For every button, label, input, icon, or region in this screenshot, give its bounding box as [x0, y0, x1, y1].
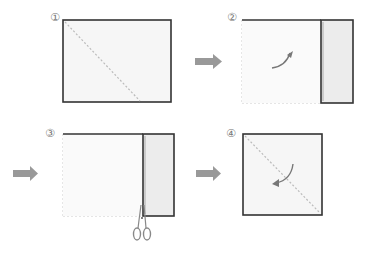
step-4-paper	[243, 134, 322, 215]
step-2-paper	[242, 20, 353, 103]
diagram-canvas	[0, 0, 368, 255]
step-3-paper	[63, 134, 174, 216]
right-arrow-icon	[196, 166, 221, 181]
step-1-paper	[63, 20, 171, 102]
right-arrow-icon	[195, 54, 222, 69]
right-arrow-icon	[13, 166, 38, 181]
